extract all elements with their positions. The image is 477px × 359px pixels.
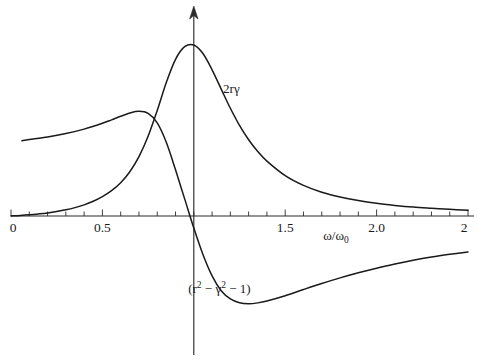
figure-container: 00.51.52.02 ω/ω02rγ(r2 − γ2 − 1) bbox=[0, 0, 477, 359]
x-axis-tick-label: 0.5 bbox=[94, 220, 111, 235]
curve-dispersion bbox=[22, 111, 468, 303]
x-axis-tick-label: 2 bbox=[461, 220, 468, 235]
x-axis-tick-label: 2.0 bbox=[368, 220, 385, 235]
dispersion-curve-label: (r2 − γ2 − 1) bbox=[188, 280, 250, 296]
x-axis-ticks bbox=[11, 210, 468, 217]
resonance-dispersion-plot: 00.51.52.02 ω/ω02rγ(r2 − γ2 − 1) bbox=[0, 0, 477, 359]
x-axis-tick-label: 1.5 bbox=[277, 220, 294, 235]
annotations-group: ω/ω02rγ(r2 − γ2 − 1) bbox=[188, 81, 349, 296]
absorption-curve-label: 2rγ bbox=[223, 81, 240, 96]
tick-labels-group: 00.51.52.02 bbox=[10, 220, 468, 235]
x-axis-label: ω/ω0 bbox=[323, 228, 349, 245]
x-axis-tick-label: 0 bbox=[10, 220, 17, 235]
